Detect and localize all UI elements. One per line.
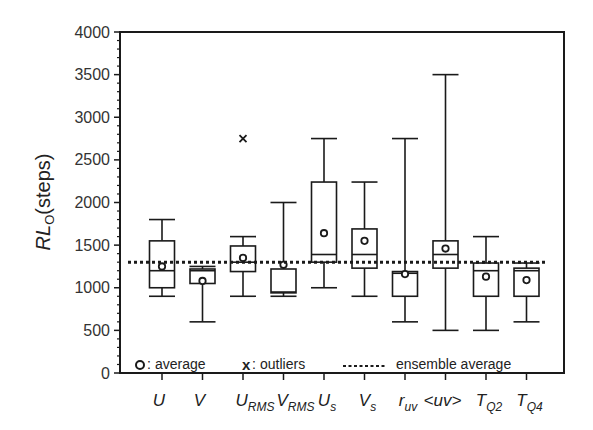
average-legend-colon: : xyxy=(147,356,151,372)
x-category-label: URMS xyxy=(236,391,275,414)
y-tick-label: 1500 xyxy=(74,237,110,254)
box-v-s xyxy=(352,182,378,296)
y-axis: 05001000150020002500300035004000 xyxy=(74,24,120,382)
outliers-legend-label: outliers xyxy=(260,356,305,372)
average-marker xyxy=(483,273,489,279)
average-marker xyxy=(321,230,327,236)
y-label-sub: O xyxy=(42,215,57,225)
x-category-label: Us xyxy=(318,391,336,414)
box-v xyxy=(190,266,216,321)
outlier-marker xyxy=(240,135,247,142)
plot-border xyxy=(120,32,564,373)
x-category-label: Vs xyxy=(359,391,376,414)
box-plot-chart: 05001000150020002500300035004000 UVURMSV… xyxy=(0,0,593,430)
average-marker xyxy=(402,271,408,277)
y-axis-label: RLO(steps) xyxy=(32,154,57,251)
average-marker xyxy=(240,255,246,261)
box-series xyxy=(149,75,540,331)
average-marker xyxy=(361,238,367,244)
box-t-q2 xyxy=(473,237,499,331)
y-label-unit: (steps) xyxy=(32,154,54,215)
plot-frame xyxy=(120,32,564,373)
box-u-s xyxy=(311,139,337,288)
y-tick-label: 2500 xyxy=(74,151,110,168)
average-legend-label: average xyxy=(155,356,206,372)
box-u-rms xyxy=(230,135,256,296)
box-t-q4 xyxy=(514,263,540,322)
y-tick-label: 500 xyxy=(83,322,110,339)
x-axis: UVURMSVRMSUsVsruv<uv>TQ2TQ4 xyxy=(153,373,543,414)
average-marker xyxy=(199,278,205,284)
average-marker xyxy=(523,277,529,283)
legend: : average x : outliers ensemble average xyxy=(136,356,511,373)
y-tick-label: 0 xyxy=(101,365,110,382)
svg-text:RLO(steps): RLO(steps) xyxy=(32,154,57,251)
x-category-label: ruv xyxy=(399,391,418,414)
average-marker xyxy=(159,263,165,269)
x-category-label: TQ4 xyxy=(516,391,543,414)
outlier-legend-colon: : xyxy=(252,356,256,372)
x-category-label: V xyxy=(194,391,207,410)
x-category-label: U xyxy=(153,391,166,410)
box-v-rms xyxy=(271,203,297,297)
box-u xyxy=(149,220,175,297)
y-tick-label: 2000 xyxy=(74,194,110,211)
iqr-box xyxy=(312,182,337,262)
y-tick-label: 3000 xyxy=(74,109,110,126)
ensemble-legend-label: ensemble average xyxy=(396,356,511,372)
x-category-label: <uv> xyxy=(424,391,462,410)
x-category-label: VRMS xyxy=(276,391,314,414)
box--uv- xyxy=(433,75,459,331)
iqr-box xyxy=(271,269,296,293)
y-tick-label: 1000 xyxy=(74,279,110,296)
outlier-legend-icon: x xyxy=(242,356,251,373)
y-label-main: RL xyxy=(32,225,54,251)
average-marker xyxy=(442,245,448,251)
average-legend-icon xyxy=(136,361,144,369)
x-category-label: TQ2 xyxy=(476,391,503,414)
y-tick-label: 3500 xyxy=(74,66,110,83)
y-tick-label: 4000 xyxy=(74,24,110,41)
box-r-uv xyxy=(392,139,418,322)
